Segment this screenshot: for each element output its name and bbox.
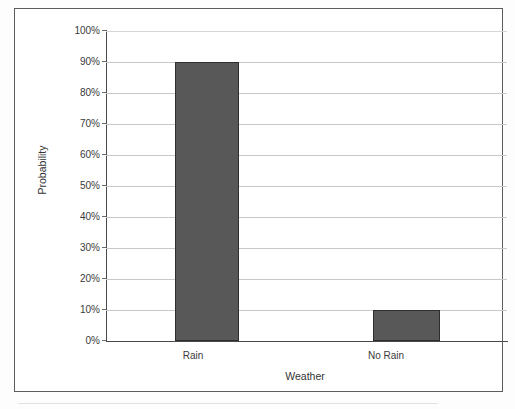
ytick-label-40: 40% <box>40 212 100 222</box>
category-label-no-rain: No Rain <box>326 350 446 361</box>
gridline-20 <box>106 279 507 280</box>
category-label-rain: Rain <box>133 350 253 361</box>
gridline-70 <box>106 124 507 125</box>
ytick-mark-90 <box>102 61 106 62</box>
ytick-label-90: 90% <box>40 57 100 67</box>
x-axis-line <box>106 341 508 342</box>
gridline-80 <box>106 93 507 94</box>
ytick-label-60: 60% <box>40 150 100 160</box>
ytick-mark-100 <box>102 30 106 31</box>
gridline-30 <box>106 248 507 249</box>
gridline-10 <box>106 310 507 311</box>
ytick-mark-0 <box>102 340 106 341</box>
chart-figure-frame: 100% 90% 80% 70% 60% 50% 40% 30% 20% 10%… <box>14 8 503 392</box>
ytick-mark-20 <box>102 278 106 279</box>
ytick-mark-40 <box>102 216 106 217</box>
ytick-label-10: 10% <box>40 305 100 315</box>
y-axis-title: Probability <box>36 120 48 220</box>
bar-no-rain <box>373 310 440 341</box>
ytick-label-100: 100% <box>40 26 100 36</box>
ytick-mark-80 <box>102 92 106 93</box>
ytick-mark-10 <box>102 309 106 310</box>
ytick-mark-60 <box>102 154 106 155</box>
scan-artifact-line <box>18 403 438 404</box>
gridline-100 <box>106 31 507 32</box>
ytick-label-80: 80% <box>40 88 100 98</box>
ytick-label-70: 70% <box>40 119 100 129</box>
gridline-60 <box>106 155 507 156</box>
bar-rain <box>175 62 239 341</box>
ytick-mark-70 <box>102 123 106 124</box>
ytick-label-0: 0% <box>40 336 100 346</box>
ytick-mark-50 <box>102 185 106 186</box>
gridline-50 <box>106 186 507 187</box>
gridline-90 <box>106 62 507 63</box>
plot-area <box>106 31 507 341</box>
ytick-label-30: 30% <box>40 243 100 253</box>
ytick-label-50: 50% <box>40 181 100 191</box>
scanned-page: 100% 90% 80% 70% 60% 50% 40% 30% 20% 10%… <box>0 0 515 409</box>
ytick-label-20: 20% <box>40 274 100 284</box>
x-axis-title: Weather <box>245 370 365 382</box>
ytick-mark-30 <box>102 247 106 248</box>
gridline-40 <box>106 217 507 218</box>
